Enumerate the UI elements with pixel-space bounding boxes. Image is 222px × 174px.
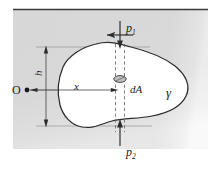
label-gamma: γ: [166, 86, 171, 99]
label-p1: p1: [126, 22, 136, 37]
label-area-element: dA: [130, 84, 142, 95]
figure-container: p1 p2 O h x dA γ: [0, 0, 222, 174]
label-origin: O: [12, 84, 21, 96]
label-x-coordinate: x: [74, 81, 79, 92]
origin-point: [25, 88, 30, 93]
label-depth-h: h: [33, 71, 44, 77]
diagram-canvas: [0, 0, 222, 174]
label-p2: p2: [126, 146, 136, 161]
